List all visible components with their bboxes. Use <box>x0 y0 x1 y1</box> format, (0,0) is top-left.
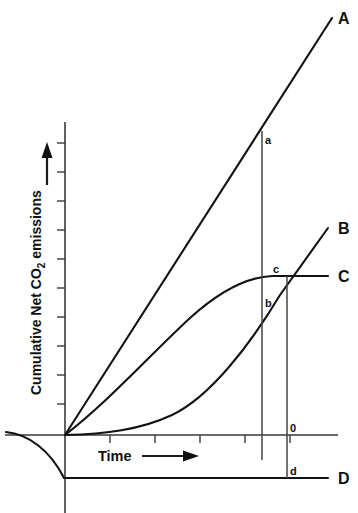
y-axis-title-post: emissions <box>28 190 44 263</box>
curve-c-path <box>65 276 328 435</box>
y-axis-title: Cumulative Net CO2 emissions <box>28 190 47 395</box>
annotation-label-a: a <box>265 134 272 146</box>
x-axis-arrow-icon <box>142 451 199 462</box>
axes-group <box>5 122 338 513</box>
cumulative-co2-emissions-chart: Cumulative Net CO2 emissions Time A B C … <box>0 0 358 513</box>
curve-d-arc-path <box>6 432 64 478</box>
curve-label-a: A <box>338 10 350 27</box>
curve-a-path <box>65 18 332 435</box>
curve-label-c: C <box>338 268 350 285</box>
y-axis-ticks <box>57 143 65 404</box>
y-axis-title-pre: Cumulative Net CO <box>28 268 44 395</box>
annotation-label-zero: 0 <box>290 422 296 434</box>
curve-label-d: D <box>338 470 350 487</box>
x-axis-title: Time <box>98 448 132 464</box>
y-axis-arrow-icon <box>42 142 53 185</box>
annotation-label-b: b <box>265 297 272 309</box>
x-axis-ticks <box>110 435 290 443</box>
curve-label-b: B <box>338 220 350 237</box>
curve-b-path <box>65 228 328 435</box>
annotation-label-c: c <box>273 263 279 275</box>
annotation-label-d: d <box>290 465 297 477</box>
